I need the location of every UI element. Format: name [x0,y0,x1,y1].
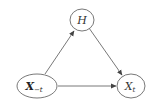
node-x-minus-t-subscript: −t [34,86,43,94]
edge-h-to-xt [89,28,122,75]
node-x-minus-t-label: X [24,80,34,93]
causal-diagram: H X−t Xt [0,0,156,103]
node-x-minus-t: X−t [17,74,57,98]
node-x-t-subscript: t [133,86,136,94]
node-h-label: H [76,14,87,27]
node-h: H [70,9,94,31]
node-x-t: Xt [117,74,145,98]
edge-xminust-to-h [45,31,74,74]
